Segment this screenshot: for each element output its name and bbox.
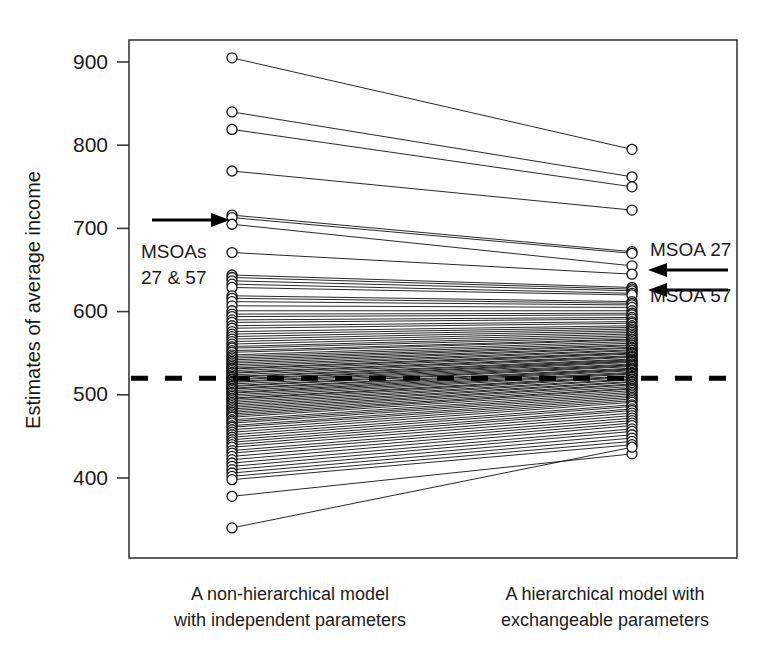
right-caption-line1: A hierarchical model with: [505, 584, 704, 604]
connector-line: [232, 253, 632, 275]
y-tick-label-400: 400: [73, 466, 108, 489]
figure-panel: 900800700600500400 MSOAs 27 & 57 MSOA 27…: [0, 0, 778, 660]
connector-line: [232, 331, 632, 339]
data-point-right: [627, 248, 637, 258]
y-tick-label-800: 800: [73, 133, 108, 156]
connector-line: [232, 315, 632, 317]
left-caption-line2: with independent parameters: [173, 610, 406, 630]
left-annotation-arrow: [152, 213, 230, 227]
data-point-right: [627, 269, 637, 279]
arrow-head-left-icon: [648, 263, 667, 277]
connector-line: [232, 447, 632, 528]
connector-line: [232, 445, 632, 480]
data-point-left: [227, 523, 237, 533]
left-annotation-line1: MSOAs: [141, 241, 206, 262]
y-tick-label-900: 900: [73, 50, 108, 73]
data-point-left: [227, 107, 237, 117]
data-point-right: [627, 172, 637, 182]
data-point-left: [227, 53, 237, 63]
data-point-left: [227, 124, 237, 134]
right-annotation-msoa-27: MSOA 27: [650, 239, 731, 260]
connector-line: [232, 129, 632, 186]
connector-line: [232, 313, 632, 314]
connector-line: [232, 454, 632, 496]
y-axis-title: Estimates of average income: [22, 171, 44, 429]
y-tick-label-700: 700: [73, 216, 108, 239]
left-caption-line1: A non-hierarchical model: [191, 584, 389, 604]
connector-line: [232, 224, 632, 266]
right-caption-line2: exchangeable parameters: [501, 610, 709, 630]
connector-line: [232, 306, 632, 308]
connector-line: [232, 58, 632, 150]
data-point-left: [227, 219, 237, 229]
left-annotation-line2: 27 & 57: [141, 267, 207, 288]
y-tick-label-600: 600: [73, 299, 108, 322]
data-point-right: [627, 182, 637, 192]
y-axis: 900800700600500400: [73, 50, 129, 489]
connector-line: [232, 438, 632, 473]
y-tick-label-500: 500: [73, 382, 108, 405]
data-point-left: [227, 248, 237, 258]
parallel-coordinates-chart: 900800700600500400 MSOAs 27 & 57 MSOA 27…: [0, 0, 778, 660]
connector-line: [232, 171, 632, 210]
data-point-right: [627, 442, 637, 452]
data-point-left: [227, 475, 237, 485]
connector-line: [232, 218, 632, 254]
data-point-left: [227, 491, 237, 501]
data-point-right: [627, 144, 637, 154]
data-point-right: [627, 205, 637, 215]
connector-line: [232, 112, 632, 177]
data-point-left: [227, 166, 237, 176]
connector-line: [232, 215, 632, 252]
data-series-group: [227, 53, 637, 533]
right-annotation-msoa-57: MSOA 57: [650, 285, 731, 306]
right-annotation-arrow-27: [648, 263, 728, 277]
connector-line: [232, 277, 632, 289]
